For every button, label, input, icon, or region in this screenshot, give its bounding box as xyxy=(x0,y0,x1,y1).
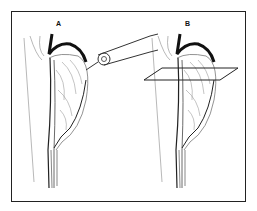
panel-a-illustration xyxy=(24,34,150,188)
panel-b-illustration xyxy=(144,34,238,188)
anatomical-diagram xyxy=(0,0,257,211)
